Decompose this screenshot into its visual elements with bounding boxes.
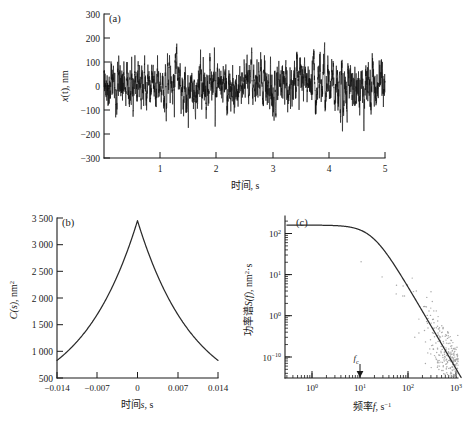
panel-c-xtick-1e3: 103 (450, 383, 462, 394)
panel-a-label: (a) (109, 13, 121, 25)
panel-a-xtick-2: 2 (214, 164, 219, 174)
panel-c-y-ticks (285, 234, 292, 358)
panel-b-ytick-3000: 3 000 (32, 240, 54, 250)
panel-b-ylabel: C(s), nm2 (8, 281, 21, 319)
panel-a-xtick-4: 4 (327, 164, 332, 174)
panel-b-y-ticks (57, 218, 63, 378)
panel-c-ylabel: 功率谱S(f), nm2·s (242, 264, 255, 337)
panel-c-ylabel-cn: 功率谱 (242, 306, 254, 336)
panel-a: (a) 300 200 100 0 −100 −200 −3 (59, 10, 388, 192)
panel-c-xtick-1e3-exp: 3 (459, 383, 462, 389)
panel-b-y-tick-labels: 3 500 3 000 2 500 2 000 1 500 1 000 500 (32, 214, 54, 384)
panel-c-label: (c) (296, 217, 308, 229)
panel-b-xlabel: 时间s, s (121, 398, 154, 410)
panel-c-ytick-1e0-exp: 0 (278, 311, 281, 317)
panel-a-ytick-300: 300 (86, 10, 101, 20)
panel-a-ytick-0: 0 (95, 82, 100, 92)
panel-c-lorentzian-fit (287, 225, 461, 377)
panel-b-x-ticks (57, 372, 218, 378)
panel-c-xtick-1e1-exp: 1 (363, 383, 366, 389)
panel-c-xlabel-unit: , s (375, 401, 384, 412)
panel-c-xlabel: 频率f, s−1 (353, 400, 392, 412)
panel-b-xtick-0014: 0.014 (208, 383, 229, 393)
panel-b-xtick-0007: 0.007 (168, 383, 189, 393)
panel-c-y-minor-ticks (285, 221, 290, 373)
panel-c-ytick-1e0: 100 (269, 311, 281, 322)
panel-a-ytick-neg200: −200 (80, 130, 100, 140)
panel-a-x-ticks (160, 152, 385, 158)
panel-c-ytick-1eneg10-exp: −10 (272, 352, 281, 358)
panel-c-xtick-1e1: 101 (354, 383, 366, 394)
panel-c-scatter-points (360, 261, 458, 378)
panel-a-ylabel: x(t), nm (59, 70, 71, 103)
panel-a-ytick-100: 100 (86, 58, 101, 68)
corner-frequency-label: fc (353, 353, 359, 365)
panel-b-ytick-2000: 2 000 (32, 294, 54, 304)
panel-a-ytick-neg300: −300 (80, 154, 100, 164)
panel-c-x-tick-labels: 100 101 102 103 (306, 383, 462, 394)
panel-c-x-ticks (312, 371, 456, 378)
panel-b-ytick-500: 500 (39, 374, 54, 384)
corner-frequency-annotation: fc (353, 353, 363, 378)
panel-a-ytick-neg100: −100 (80, 106, 100, 116)
svg-text:功率谱S(f), nm2·s: 功率谱S(f), nm2·s (242, 264, 255, 337)
panel-b-label: (b) (62, 217, 75, 229)
panel-b-autocorrelation-curve (57, 221, 218, 361)
figure-svg: (a) 300 200 100 0 −100 −200 −3 (0, 0, 467, 430)
panel-a-ylabel-arg: (t) (59, 88, 71, 97)
panel-b-ytick-1000: 1 000 (32, 347, 54, 357)
panel-b-xtick-neg0007: −0.007 (84, 383, 110, 393)
panel-c-ytick-1e1: 101 (269, 270, 281, 281)
panel-a-ytick-200: 200 (86, 34, 101, 44)
panel-c-xlabel-sup: −1 (384, 401, 391, 408)
panel-c-xtick-1e2: 102 (402, 383, 414, 394)
svg-text:C(s), nm2: C(s), nm2 (8, 281, 21, 319)
panel-c-ytick-1e2-exp: 2 (278, 229, 281, 235)
panel-a-xlabel: 时间, s (231, 179, 260, 191)
panel-b-xtick-0: 0 (135, 383, 140, 393)
panel-c-ytick-1e2: 102 (269, 229, 281, 240)
panel-c-ytick-1eneg10: 10−10 (263, 352, 281, 363)
svg-text:x(t), nm: x(t), nm (59, 70, 71, 103)
panel-a-xtick-5: 5 (383, 164, 388, 174)
panel-b-ytick-3500: 3 500 (32, 214, 54, 224)
figure-container: (a) 300 200 100 0 −100 −200 −3 (0, 0, 467, 430)
panel-b-x-tick-labels: −0.014 −0.007 0 0.007 0.014 (44, 383, 228, 393)
panel-a-x-tick-labels: 1 2 3 4 5 (158, 164, 388, 174)
panel-c-xtick-1e2-exp: 2 (411, 383, 414, 389)
panel-b-xlabel-unit: , s (145, 399, 154, 410)
panel-c-xtick-1e0: 100 (306, 383, 318, 394)
panel-c-y-tick-labels: 102 101 100 10−10 (263, 229, 281, 363)
panel-b-ytick-2500: 2 500 (32, 267, 54, 277)
panel-a-y-tick-labels: 300 200 100 0 −100 −200 −300 (80, 10, 100, 164)
panel-b-xlabel-cn: 时间 (121, 398, 141, 410)
panel-b-ylabel-arg: (s) (8, 301, 20, 312)
panel-a-noise-trace (104, 42, 385, 131)
panel-a-ylabel-unit: , nm (59, 70, 70, 88)
panel-b-ylabel-unit: , nm (8, 284, 19, 302)
panel-b-xtick-neg0014: −0.014 (44, 383, 70, 393)
panel-a-xtick-1: 1 (158, 164, 163, 174)
corner-frequency-sub: c (356, 359, 359, 365)
panel-c-xtick-1e0-exp: 0 (315, 383, 318, 389)
panel-c-ytick-1e1-exp: 1 (278, 270, 281, 276)
panel-b: (b) 3 500 3 000 2 500 2 000 1 500 1 000 … (8, 214, 229, 411)
panel-c-ylabel-unit: , nm (243, 274, 254, 292)
panel-a-xtick-3: 3 (271, 164, 276, 174)
panel-c: (c) 102 101 100 10−10 (242, 216, 462, 412)
panel-b-ylabel-sup: 2 (8, 281, 15, 284)
panel-c-ylabel-unit2: ·s (243, 264, 254, 271)
panel-b-ytick-1500: 1 500 (32, 320, 54, 330)
panel-c-xlabel-cn: 频率 (353, 400, 373, 412)
